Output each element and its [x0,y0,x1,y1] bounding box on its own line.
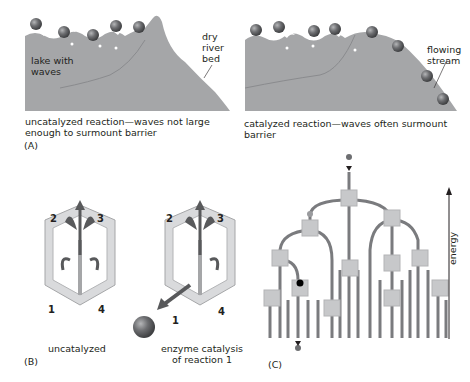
panel-a-letter: (A) [24,140,38,151]
uncatalyzed-caption: uncatalyzed reaction—waves not large eno… [25,116,210,138]
transition-state-cube [264,190,448,316]
catalyzed-caption: catalyzed reaction—waves often surmount … [244,118,470,140]
flowing-stream-label: flowing stream [427,44,461,66]
panel-b-letter: (B) [24,356,38,367]
state-2-label: 2 [50,213,57,224]
dry-river-bed-label: dry river bed [202,31,224,64]
state-4-label: 4 [98,304,105,315]
reaction-pathway-tree [262,160,462,380]
state-3-label: 3 [97,213,104,224]
state-2-label: 2 [166,213,173,224]
energy-axis-label: energy [447,232,458,265]
product-ball [132,315,156,339]
state-1-label: 1 [172,315,179,326]
lake-label: lake with waves [31,55,74,77]
state-4-label: 4 [218,306,225,317]
uncatalyzed-box [35,200,125,310]
uncatalyzed-label: uncatalyzed [48,343,106,354]
panel-c-letter: (C) [268,359,282,370]
enzyme-catalysis-label: enzyme catalysis of reaction 1 [157,343,247,365]
state-3-label: 3 [217,213,224,224]
state-1-label: 1 [48,304,55,315]
